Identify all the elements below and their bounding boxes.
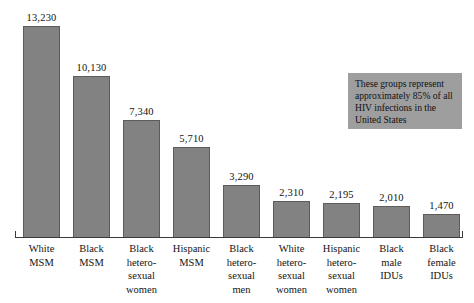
bar-value-label: 2,195 <box>329 189 354 201</box>
category-label-line: sexual <box>268 269 316 283</box>
category-label: BlackfemaleIDUs <box>418 242 466 283</box>
category-label-line: White <box>18 242 66 256</box>
category-label: Blackhetero-sexualwomen <box>118 242 166 296</box>
bar-group: 3,290 <box>223 1 260 238</box>
bar-group: 13,230 <box>23 1 60 238</box>
category-label-line: men <box>218 283 266 297</box>
category-label-line: Hispanic <box>168 242 216 256</box>
category-label: BlackMSM <box>68 242 116 269</box>
category-label-line: sexual <box>318 269 366 283</box>
bar <box>73 76 110 238</box>
x-axis-line <box>15 237 463 238</box>
bar-value-label: 2,010 <box>379 192 404 204</box>
category-label-line: Black <box>368 242 416 256</box>
category-label-line: IDUs <box>368 269 416 283</box>
category-label: BlackmaleIDUs <box>368 242 416 283</box>
callout-line: HIV infections in the <box>355 102 456 114</box>
category-label-line: sexual <box>118 269 166 283</box>
category-label-line: hetero- <box>218 256 266 270</box>
callout-line: These groups represent <box>355 78 456 90</box>
bar-value-label: 5,710 <box>179 133 204 145</box>
category-label: HispanicMSM <box>168 242 216 269</box>
bar-group: 5,710 <box>173 1 210 238</box>
bar <box>373 206 410 238</box>
category-label-line: MSM <box>168 256 216 270</box>
category-label: WhiteMSM <box>18 242 66 269</box>
callout-line: approximately 85% of all <box>355 90 456 102</box>
bar <box>423 214 460 238</box>
bar-value-label: 3,290 <box>229 171 254 183</box>
category-label-line: Black <box>418 242 466 256</box>
bar <box>23 26 60 238</box>
bar-value-label: 7,340 <box>129 106 154 118</box>
bar <box>123 120 160 238</box>
category-label-line: Black <box>218 242 266 256</box>
bar <box>223 185 260 238</box>
callout-annotation: These groups representapproximately 85% … <box>348 73 462 129</box>
category-label-line: women <box>118 283 166 297</box>
category-label-line: women <box>268 283 316 297</box>
category-label: Whitehetero-sexualwomen <box>268 242 316 296</box>
x-axis-tick-right <box>462 231 463 238</box>
category-label-line: sexual <box>218 269 266 283</box>
callout-line: United States <box>355 114 456 126</box>
category-label-line: hetero- <box>118 256 166 270</box>
bar-value-label: 10,130 <box>76 62 106 74</box>
category-label-line: IDUs <box>418 269 466 283</box>
category-label-line: Black <box>68 242 116 256</box>
bar-group: 2,310 <box>273 1 310 238</box>
category-label: Blackhetero-sexualmen <box>218 242 266 296</box>
category-label-line: Hispanic <box>318 242 366 256</box>
category-label-line: hetero- <box>268 256 316 270</box>
bar <box>173 147 210 238</box>
bar-value-label: 13,230 <box>26 12 56 24</box>
bar <box>273 201 310 238</box>
bar-group: 10,130 <box>73 1 110 238</box>
bar-chart: 13,23010,1307,3405,7103,2902,3102,1952,0… <box>0 0 474 303</box>
category-label-line: female <box>418 256 466 270</box>
category-label-line: women <box>318 283 366 297</box>
category-label-row: WhiteMSMBlackMSMBlackhetero-sexualwomenH… <box>0 242 474 303</box>
x-axis-tick-left <box>15 231 16 238</box>
category-label-line: MSM <box>18 256 66 270</box>
bar-value-label: 2,310 <box>279 187 304 199</box>
category-label-line: male <box>368 256 416 270</box>
category-label-line: Black <box>118 242 166 256</box>
bar <box>323 203 360 238</box>
category-label-line: hetero- <box>318 256 366 270</box>
category-label-line: White <box>268 242 316 256</box>
category-label: Hispanichetero-sexualwomen <box>318 242 366 296</box>
category-label-line: MSM <box>68 256 116 270</box>
bar-group: 7,340 <box>123 1 160 238</box>
bar-value-label: 1,470 <box>429 200 454 212</box>
